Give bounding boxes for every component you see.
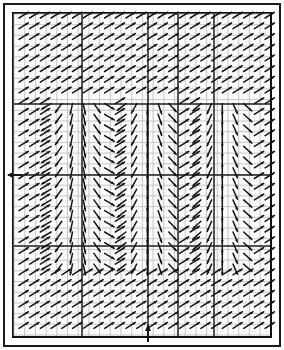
vector-arrow bbox=[180, 44, 189, 50]
vector-arrow bbox=[51, 322, 60, 328]
vector-arrow bbox=[19, 237, 28, 243]
vector-arrow bbox=[265, 162, 274, 168]
vector-arrow bbox=[190, 312, 199, 318]
vector-arrow bbox=[265, 269, 274, 275]
vector-arrow bbox=[94, 322, 103, 328]
vector-arrow bbox=[105, 221, 114, 227]
vector-arrow bbox=[40, 312, 49, 318]
vector-arrow bbox=[137, 12, 146, 18]
vector-arrow bbox=[180, 66, 189, 72]
vector-arrow bbox=[62, 55, 71, 61]
vector-arrow bbox=[131, 146, 136, 156]
vector-arrow bbox=[233, 76, 242, 82]
vector-arrow bbox=[207, 104, 212, 114]
vector-arrow bbox=[131, 168, 136, 178]
vector-arrow bbox=[83, 146, 86, 157]
vector-arrow bbox=[254, 248, 263, 254]
vector-arrow bbox=[62, 12, 71, 18]
vector-arrow bbox=[180, 108, 189, 114]
vector-arrow bbox=[126, 23, 135, 29]
vector-arrow bbox=[254, 301, 263, 307]
vector-arrow bbox=[105, 280, 114, 286]
vector-arrow bbox=[180, 248, 189, 254]
vector-arrow bbox=[55, 157, 61, 166]
vector-arrow bbox=[158, 23, 167, 29]
vector-arrow bbox=[55, 136, 61, 145]
vector-arrow bbox=[137, 322, 146, 328]
vector-arrow bbox=[94, 34, 103, 40]
vector-arrow bbox=[221, 232, 224, 243]
vector-arrow bbox=[233, 243, 238, 253]
vector-arrow bbox=[105, 264, 114, 270]
vector-arrow bbox=[105, 44, 114, 50]
vector-arrow bbox=[40, 23, 49, 29]
vector-arrow bbox=[73, 269, 82, 275]
vector-arrow bbox=[105, 87, 114, 93]
vector-arrow bbox=[244, 136, 252, 143]
vector-arrow bbox=[62, 23, 71, 29]
vector-arrow bbox=[69, 168, 72, 179]
vector-arrow bbox=[69, 243, 72, 254]
vector-arrow bbox=[158, 104, 162, 114]
vector-arrow bbox=[212, 280, 221, 286]
vector-arrow bbox=[180, 280, 189, 286]
x-origin-arrowhead bbox=[145, 324, 151, 331]
vector-arrow bbox=[94, 66, 103, 72]
vector-arrow bbox=[254, 183, 263, 189]
vector-arrow bbox=[137, 55, 146, 61]
vector-arrow bbox=[30, 194, 39, 200]
vector-arrow bbox=[169, 301, 178, 307]
vector-arrow bbox=[73, 301, 82, 307]
vector-arrow bbox=[19, 66, 28, 72]
vector-arrow bbox=[94, 312, 103, 318]
vector-arrow bbox=[55, 253, 61, 262]
vector-arrow bbox=[19, 162, 28, 168]
vector-arrow bbox=[105, 76, 114, 82]
vector-arrow bbox=[105, 312, 114, 318]
vector-arrow bbox=[265, 119, 274, 125]
vector-arrow bbox=[254, 258, 263, 264]
vector-arrow bbox=[180, 237, 189, 243]
vector-arrow bbox=[265, 76, 274, 82]
vector-arrow bbox=[221, 168, 224, 179]
vector-arrow bbox=[207, 168, 212, 178]
vector-arrow bbox=[158, 211, 162, 221]
vector-arrow bbox=[30, 98, 39, 104]
vector-arrow bbox=[254, 76, 263, 82]
vector-arrow bbox=[73, 44, 82, 50]
vector-arrow bbox=[105, 211, 114, 217]
vector-arrow bbox=[158, 168, 162, 178]
vector-arrow bbox=[40, 280, 49, 286]
vector-arrow bbox=[265, 87, 274, 93]
vector-arrow bbox=[40, 87, 49, 93]
vector-arrow bbox=[222, 34, 231, 40]
vector-arrow bbox=[19, 248, 28, 254]
vector-arrow bbox=[126, 322, 135, 328]
vector-arrow bbox=[222, 290, 231, 296]
vector-arrow bbox=[233, 168, 238, 178]
vector-arrow bbox=[19, 322, 28, 328]
vector-arrow bbox=[94, 23, 103, 29]
vector-arrow bbox=[62, 76, 71, 82]
y-origin-arrowhead bbox=[7, 172, 13, 178]
vector-arrow bbox=[265, 226, 274, 232]
vector-arrow bbox=[19, 108, 28, 114]
vector-arrow bbox=[158, 179, 162, 189]
vector-arrow bbox=[19, 194, 28, 200]
vector-arrow bbox=[51, 55, 60, 61]
vector-arrow bbox=[233, 23, 242, 29]
vector-arrow bbox=[244, 280, 253, 286]
vector-arrow bbox=[254, 215, 263, 221]
vector-arrow bbox=[147, 290, 156, 296]
vector-arrow bbox=[158, 280, 167, 286]
vector-arrow bbox=[40, 66, 49, 72]
vector-arrow bbox=[30, 280, 39, 286]
vector-arrow bbox=[158, 157, 162, 167]
vector-arrow bbox=[83, 243, 86, 254]
vector-arrow bbox=[69, 136, 72, 147]
vector-arrow bbox=[19, 76, 28, 82]
vector-arrow bbox=[265, 280, 274, 286]
vector-arrow bbox=[55, 232, 61, 241]
vector-arrow bbox=[180, 322, 189, 328]
vector-arrow bbox=[222, 87, 231, 93]
